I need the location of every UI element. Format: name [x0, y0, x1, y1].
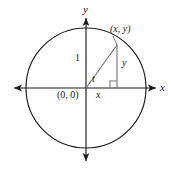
- right-angle-marker: [110, 81, 117, 88]
- x-axis: [14, 85, 156, 92]
- radius-length-label: 1: [75, 53, 80, 63]
- vertical-leg-label: y: [122, 58, 126, 68]
- point-coordinate-label: (x, y): [110, 24, 131, 34]
- unit-circle-svg: [0, 0, 171, 170]
- unit-circle-figure: y x (x, y) (0, 0) 1 y x t: [0, 0, 171, 170]
- y-axis-label: y: [83, 4, 88, 15]
- angle-label: t: [92, 74, 95, 84]
- hypotenuse-segment: [86, 45, 117, 88]
- reference-triangle: [86, 45, 117, 88]
- origin-label: (0, 0): [57, 90, 79, 100]
- y-axis: [83, 18, 90, 161]
- point-leader-line: [113, 36, 117, 45]
- horizontal-leg-label: x: [96, 90, 100, 100]
- x-axis-label: x: [160, 82, 165, 93]
